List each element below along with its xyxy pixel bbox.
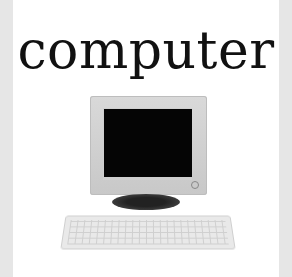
keyboard-keys bbox=[67, 220, 229, 244]
monitor-stand-icon bbox=[112, 194, 180, 210]
monitor-icon bbox=[90, 96, 207, 195]
flashcard: computer bbox=[13, 0, 279, 277]
word-label: computer bbox=[13, 20, 279, 80]
power-button-icon bbox=[191, 181, 199, 189]
monitor-screen bbox=[104, 109, 192, 177]
keyboard-icon bbox=[60, 216, 235, 250]
